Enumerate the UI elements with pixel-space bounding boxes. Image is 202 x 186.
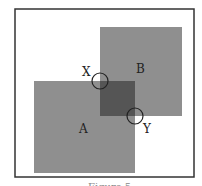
label-b: B — [136, 62, 145, 76]
label-y: Y — [142, 122, 152, 136]
label-x: X — [82, 65, 91, 79]
overlap-diagram: X B A Y Figure 5 — [0, 0, 202, 186]
label-a: A — [78, 122, 88, 136]
figure-caption: Figure 5 — [88, 181, 131, 186]
